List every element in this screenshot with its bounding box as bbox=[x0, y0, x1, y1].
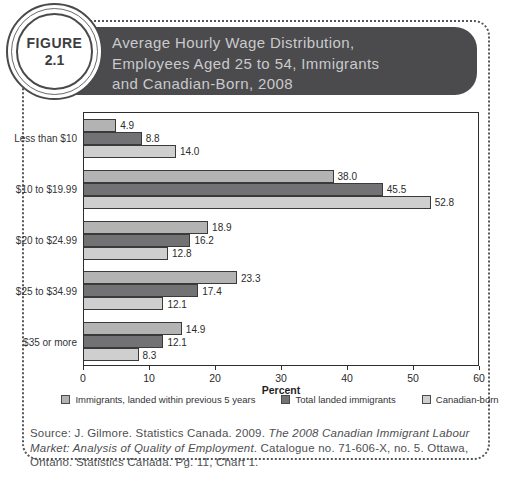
x-tick-mark bbox=[347, 366, 348, 370]
bar-value-label: 18.9 bbox=[212, 222, 231, 233]
bar-value-label: 14.9 bbox=[186, 323, 205, 334]
bar-value-label: 8.3 bbox=[143, 349, 157, 360]
bar-value-label: 14.0 bbox=[180, 146, 199, 157]
bar-value-label: 23.3 bbox=[241, 272, 260, 283]
legend-swatch-icon bbox=[281, 395, 290, 404]
legend-label: Total landed immigrants bbox=[295, 394, 395, 405]
bar-value-label: 12.1 bbox=[167, 336, 186, 347]
bar-3-series-2: 16.2 bbox=[84, 234, 190, 247]
bar-4-series-2: 17.4 bbox=[84, 284, 198, 297]
chart-plot-area: 4.98.814.038.045.552.818.916.212.823.317… bbox=[83, 112, 479, 366]
bar-value-label: 17.4 bbox=[202, 285, 221, 296]
legend-swatch-icon bbox=[61, 395, 70, 404]
x-tick-mark bbox=[83, 366, 84, 370]
x-tick-mark bbox=[149, 366, 150, 370]
figure-badge-number: 2.1 bbox=[45, 52, 64, 68]
bar-5-series-2: 12.1 bbox=[84, 335, 163, 348]
x-tick-mark bbox=[281, 366, 282, 370]
bar-value-label: 12.1 bbox=[167, 298, 186, 309]
x-tick-mark bbox=[413, 366, 414, 370]
legend-item-2: Total landed immigrants bbox=[281, 394, 395, 405]
category-label-4: $25 to $34.99 bbox=[0, 286, 77, 297]
legend-swatch-icon bbox=[422, 395, 431, 404]
legend-item-1: Immigrants, landed within previous 5 yea… bbox=[61, 394, 255, 405]
x-tick-label: 30 bbox=[266, 372, 296, 384]
chart-legend: Immigrants, landed within previous 5 yea… bbox=[70, 394, 490, 405]
bar-value-label: 8.8 bbox=[146, 133, 160, 144]
x-tick-label: 20 bbox=[200, 372, 230, 384]
source-prefix: Source: J. Gilmore. Statistics Canada. 2… bbox=[30, 427, 268, 439]
x-tick-label: 0 bbox=[68, 372, 98, 384]
bar-1-series-2: 8.8 bbox=[84, 132, 142, 145]
category-label-3: $20 to $24.99 bbox=[0, 235, 77, 246]
bar-4-series-3: 12.1 bbox=[84, 297, 163, 310]
bar-5-series-3: 8.3 bbox=[84, 348, 139, 361]
figure-badge-label: FIGURE bbox=[27, 35, 83, 51]
bar-value-label: 16.2 bbox=[194, 235, 213, 246]
bar-1-series-3: 14.0 bbox=[84, 145, 176, 158]
figure-title-line-3: and Canadian-Born, 2008 bbox=[112, 74, 467, 95]
bar-4-series-1: 23.3 bbox=[84, 271, 237, 284]
x-tick-mark bbox=[479, 366, 480, 370]
category-label-1: Less than $10 bbox=[0, 133, 77, 144]
figure-title-line-1: Average Hourly Wage Distribution, bbox=[112, 33, 467, 54]
figure-badge: FIGURE 2.1 bbox=[6, 3, 103, 100]
figure-title: Average Hourly Wage Distribution, Employ… bbox=[112, 33, 467, 95]
figure-badge-inner: FIGURE 2.1 bbox=[16, 13, 93, 90]
figure-header: Average Hourly Wage Distribution, Employ… bbox=[58, 27, 477, 95]
bar-3-series-3: 12.8 bbox=[84, 247, 168, 260]
bar-2-series-2: 45.5 bbox=[84, 183, 383, 196]
x-tick-label: 60 bbox=[464, 372, 494, 384]
figure-card: Average Hourly Wage Distribution, Employ… bbox=[0, 0, 507, 482]
x-tick-label: 10 bbox=[134, 372, 164, 384]
bar-1-series-1: 4.9 bbox=[84, 119, 116, 132]
bar-5-series-1: 14.9 bbox=[84, 322, 182, 335]
legend-label: Canadian-born bbox=[436, 394, 499, 405]
source-text: Source: J. Gilmore. Statistics Canada. 2… bbox=[30, 426, 480, 470]
x-tick-mark bbox=[215, 366, 216, 370]
x-tick-label: 40 bbox=[332, 372, 362, 384]
bar-value-label: 12.8 bbox=[172, 248, 191, 259]
category-label-5: $35 or more bbox=[0, 337, 77, 348]
bar-value-label: 52.8 bbox=[435, 197, 454, 208]
bar-value-label: 4.9 bbox=[120, 120, 134, 131]
figure-title-line-2: Employees Aged 25 to 54, Immigrants bbox=[112, 54, 467, 75]
bar-2-series-1: 38.0 bbox=[84, 170, 334, 183]
bar-value-label: 38.0 bbox=[338, 171, 357, 182]
bar-2-series-3: 52.8 bbox=[84, 196, 431, 209]
x-tick-label: 50 bbox=[398, 372, 428, 384]
category-label-2: $10 to $19.99 bbox=[0, 184, 77, 195]
bar-value-label: 45.5 bbox=[387, 184, 406, 195]
bar-3-series-1: 18.9 bbox=[84, 221, 208, 234]
legend-label: Immigrants, landed within previous 5 yea… bbox=[75, 394, 255, 405]
legend-item-3: Canadian-born bbox=[422, 394, 499, 405]
